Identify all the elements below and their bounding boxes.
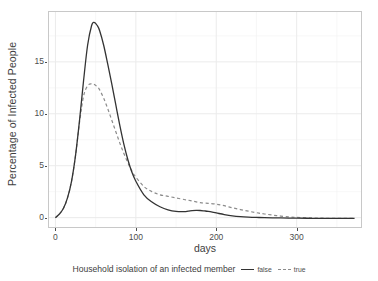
legend-item-true[interactable]: true	[278, 265, 306, 274]
legend-key-solid-line-icon	[241, 265, 254, 274]
x-tick-label: 300	[279, 233, 315, 242]
legend-key-dashed-line-icon	[278, 265, 291, 274]
legend-label-true: true	[294, 266, 306, 273]
x-tick-label: 0	[37, 233, 73, 242]
y-axis-title: Percentage of Infected People	[0, 0, 24, 228]
legend-item-false[interactable]: false	[241, 265, 271, 274]
chart-legend: Household isolation of an infected membe…	[0, 261, 378, 277]
plot-area	[49, 12, 361, 227]
y-tick-label: 10	[24, 109, 44, 118]
series-line-false	[55, 22, 354, 218]
x-tick-mark	[216, 228, 217, 231]
y-tick-label: 5	[24, 161, 44, 170]
x-tick-label: 100	[118, 233, 154, 242]
y-tick-mark	[45, 62, 48, 63]
x-axis-title: days	[48, 242, 362, 254]
plot-panel	[48, 11, 362, 228]
y-tick-label: 0	[24, 213, 44, 222]
x-tick-label: 200	[198, 233, 234, 242]
x-tick-mark	[297, 228, 298, 231]
x-tick-mark	[55, 228, 56, 231]
y-tick-mark	[45, 114, 48, 115]
y-tick-mark	[45, 218, 48, 219]
y-axis-ticks: 051015	[22, 0, 44, 228]
legend-title: Household isolation of an infected membe…	[73, 264, 236, 274]
series-line-true	[55, 84, 354, 219]
legend-label-false: false	[257, 266, 271, 273]
y-axis-title-text: Percentage of Infected People	[6, 42, 18, 186]
chart-figure: Percentage of Infected People 051015 010…	[0, 0, 378, 281]
x-tick-mark	[136, 228, 137, 231]
y-tick-label: 15	[24, 57, 44, 66]
y-tick-mark	[45, 166, 48, 167]
